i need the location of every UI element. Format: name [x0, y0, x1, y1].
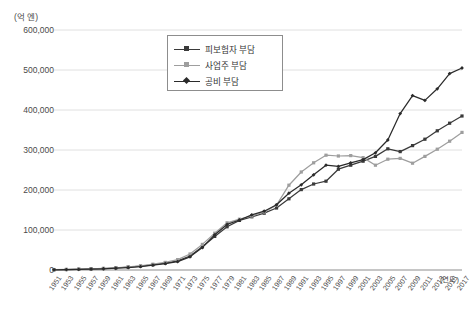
x-axis-title: (연도) — [440, 273, 459, 284]
legend-marker-icon — [174, 60, 200, 70]
legend-label: 공비 부담 — [205, 75, 239, 87]
chart-container: (억 엔) 0100,000200,000300,000400,000500,0… — [0, 0, 476, 313]
legend-label: 사업주 부담 — [205, 59, 247, 71]
legend-item[interactable]: 공비 부담 — [174, 73, 278, 89]
legend-item[interactable]: 사업주 부담 — [174, 57, 278, 73]
legend-label: 피보험자 부담 — [205, 43, 255, 55]
legend-marker-icon — [174, 44, 200, 54]
legend-marker-icon — [174, 76, 200, 86]
legend: 피보험자 부담 사업주 부담 공비 부담 — [167, 35, 283, 91]
legend-item[interactable]: 피보험자 부담 — [174, 41, 278, 57]
